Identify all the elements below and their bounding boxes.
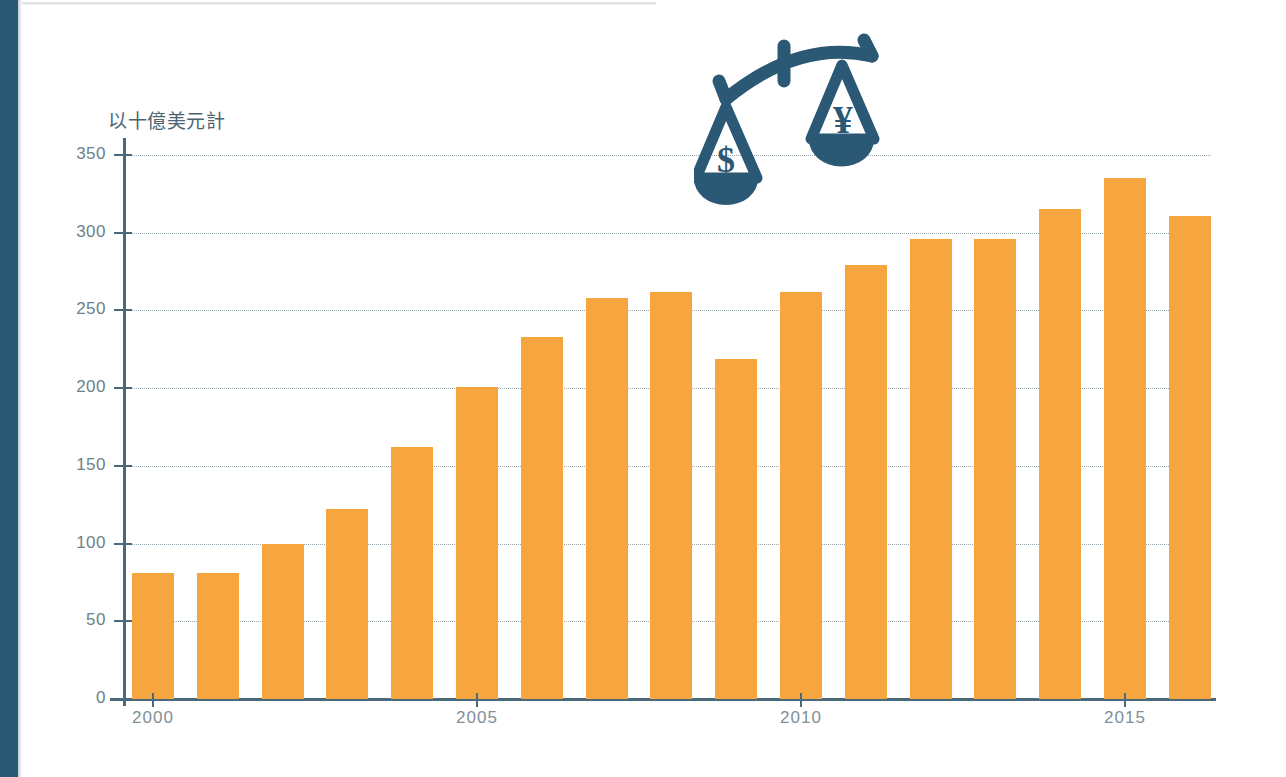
x-axis-tick xyxy=(152,693,154,707)
y-axis-tick-label: 250 xyxy=(46,299,106,319)
bar[interactable] xyxy=(974,239,1016,699)
page-canvas: 以十億美元計 050100150200250300350200020052010… xyxy=(0,0,1286,777)
balance-scales-icon: $ ¥ xyxy=(694,33,909,218)
y-axis-tick xyxy=(114,232,132,234)
bar[interactable] xyxy=(650,292,692,699)
x-axis-tick xyxy=(1124,693,1126,707)
bar[interactable] xyxy=(586,298,628,699)
left-pan-bowl xyxy=(694,179,758,205)
x-axis-tick xyxy=(476,693,478,707)
y-axis-tick-label: 200 xyxy=(46,377,106,397)
yen-symbol: ¥ xyxy=(833,97,853,142)
bar[interactable] xyxy=(197,573,239,699)
y-axis-tick-label: 350 xyxy=(46,144,106,164)
bar[interactable] xyxy=(326,509,368,699)
bar-chart: 以十億美元計 050100150200250300350200020052010… xyxy=(0,0,1286,777)
y-axis-tick-label: 300 xyxy=(46,222,106,242)
y-axis-tick-label: 100 xyxy=(46,533,106,553)
bar[interactable] xyxy=(1039,209,1081,699)
y-axis-tick-label: 150 xyxy=(46,455,106,475)
bar[interactable] xyxy=(1104,178,1146,699)
y-axis-tick xyxy=(114,465,132,467)
y-axis-tick xyxy=(114,543,132,545)
y-axis-tick xyxy=(114,620,132,622)
bar[interactable] xyxy=(1169,216,1211,699)
plot-area: 0501001502002503003502000200520102015 xyxy=(0,0,1286,777)
bar[interactable] xyxy=(521,337,563,699)
y-axis-tick-label: 0 xyxy=(46,688,106,708)
dollar-symbol: $ xyxy=(717,140,735,180)
x-axis-tick-label: 2005 xyxy=(432,708,522,728)
gridline xyxy=(126,155,1211,157)
bar[interactable] xyxy=(715,359,757,699)
y-axis-tick xyxy=(114,387,132,389)
bar[interactable] xyxy=(910,239,952,699)
bar[interactable] xyxy=(845,265,887,699)
y-axis-tick xyxy=(114,698,132,700)
x-axis-tick xyxy=(800,693,802,707)
y-axis-tick xyxy=(114,154,132,156)
x-axis-tick-label: 2000 xyxy=(108,708,198,728)
bar[interactable] xyxy=(456,387,498,699)
right-pan-bowl xyxy=(809,140,874,166)
bar[interactable] xyxy=(391,447,433,699)
y-axis-tick xyxy=(114,309,132,311)
bar[interactable] xyxy=(780,292,822,699)
x-axis-tick-label: 2010 xyxy=(756,708,846,728)
x-axis-tick-label: 2015 xyxy=(1080,708,1170,728)
bar[interactable] xyxy=(132,573,174,699)
bar[interactable] xyxy=(262,544,304,699)
y-axis-tick-label: 50 xyxy=(46,610,106,630)
